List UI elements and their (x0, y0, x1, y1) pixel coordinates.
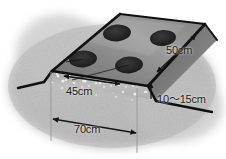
diagram-canvas: 50cm 10〜15cm 45cm 70cm (0, 0, 226, 159)
planting-bed-illustration (0, 0, 226, 159)
